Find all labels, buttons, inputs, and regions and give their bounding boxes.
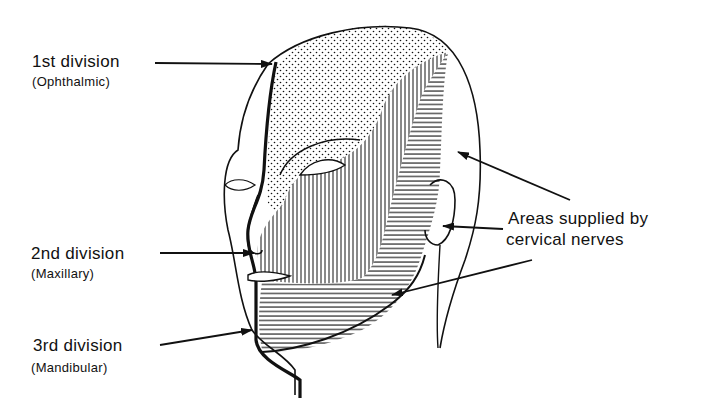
label-1st-division: 1st division [32, 53, 120, 70]
label-cervical-line1: Areas supplied by [508, 210, 648, 227]
arrow-ophthalmic [155, 63, 272, 64]
label-cervical-line2: cervical nerves [506, 231, 624, 248]
arrow-mandibular [160, 330, 252, 345]
trigeminal-diagram: 1st division (Ophthalmic) 2nd division (… [0, 0, 712, 418]
label-maxillary: (Maxillary) [31, 267, 94, 280]
arrow-cervical-scalp [458, 152, 570, 200]
label-3rd-division: 3rd division [33, 337, 123, 354]
label-mandibular: (Mandibular) [31, 361, 108, 374]
label-ophthalmic: (Ophthalmic) [32, 75, 110, 88]
label-2nd-division: 2nd division [31, 245, 124, 262]
far-eye [225, 180, 255, 191]
neck-back [437, 245, 440, 348]
